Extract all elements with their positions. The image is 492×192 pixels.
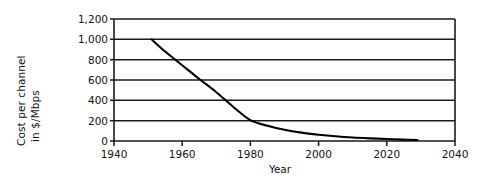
chart-container: Cost per channel in $/Mbps 0200400600800… (0, 0, 492, 192)
x-axis-title: Year (250, 163, 310, 175)
x-axis-tick-labels: 194019601980200020202040 (0, 0, 492, 192)
x-tick-label-2040: 2040 (425, 148, 485, 160)
x-tick-label-1960: 1960 (152, 148, 212, 160)
x-tick-label-2020: 2020 (357, 148, 417, 160)
x-tick-label-1940: 1940 (84, 148, 144, 160)
x-tick-label-1980: 1980 (220, 148, 280, 160)
x-tick-label-2000: 2000 (289, 148, 349, 160)
